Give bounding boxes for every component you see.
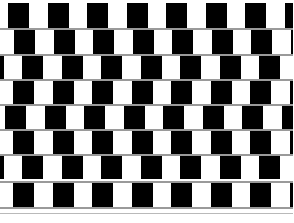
- tile-row-6: [0, 131, 293, 154]
- tile-row-track: [0, 106, 293, 129]
- tile-black: [14, 30, 35, 54]
- tile-black: [13, 183, 34, 207]
- tile-black: [211, 81, 232, 104]
- tile-black: [290, 81, 294, 104]
- tile-black: [101, 156, 122, 179]
- tile-black: [132, 183, 153, 207]
- tile-black: [242, 106, 263, 129]
- tile-row-5: [0, 106, 293, 129]
- mortar-line-shadow: [0, 213, 293, 214]
- tile-black: [245, 3, 266, 28]
- tile-black: [62, 156, 83, 179]
- tile-black: [251, 30, 272, 54]
- cafe-wall-illusion-figure: [0, 0, 293, 223]
- tile-black: [206, 3, 227, 28]
- mortar-line-1: [0, 28, 293, 30]
- tile-black: [291, 30, 294, 54]
- tile-black: [250, 131, 271, 154]
- mortar-line-2: [0, 54, 293, 56]
- tile-black: [180, 156, 201, 179]
- tile-black: [48, 3, 69, 28]
- tile-row-track: [0, 183, 293, 207]
- tile-black: [132, 131, 153, 154]
- mortar-line-4: [0, 104, 293, 106]
- tile-black: [13, 131, 34, 154]
- tile-row-track: [0, 131, 293, 154]
- tile-black: [290, 131, 294, 154]
- tile-black: [141, 56, 162, 79]
- tile-row-track: [0, 56, 293, 79]
- tile-black: [172, 30, 193, 54]
- tile-black: [259, 56, 280, 79]
- tile-black: [22, 56, 43, 79]
- tile-row-7: [0, 156, 293, 179]
- tile-black: [211, 183, 232, 207]
- tile-black: [13, 81, 34, 104]
- tile-black: [250, 183, 271, 207]
- tile-black: [53, 81, 74, 104]
- tile-black: [22, 156, 43, 179]
- tile-row-1: [0, 3, 293, 28]
- mortar-line-7: [0, 181, 293, 183]
- tile-black: [171, 81, 192, 104]
- tile-black: [124, 106, 145, 129]
- mortar-line-3: [0, 79, 293, 81]
- tile-black: [62, 56, 83, 79]
- tile-row-8: [0, 183, 293, 207]
- tile-black: [101, 56, 122, 79]
- tile-black: [92, 183, 113, 207]
- mortar-line-8: [0, 207, 293, 209]
- tile-black: [282, 106, 294, 129]
- tile-black: [180, 56, 201, 79]
- tile-black: [203, 106, 224, 129]
- tile-row-track: [0, 81, 293, 104]
- tile-black: [290, 183, 294, 207]
- tile-black: [133, 30, 154, 54]
- tile-black: [250, 81, 271, 104]
- mortar-line-6: [0, 154, 293, 156]
- tile-black: [127, 3, 148, 28]
- tile-black: [220, 56, 241, 79]
- tile-row-track: [0, 30, 293, 54]
- tile-row-2: [0, 30, 293, 54]
- tile-black: [171, 131, 192, 154]
- tile-black: [92, 81, 113, 104]
- tile-black: [93, 30, 114, 54]
- tile-black: [220, 156, 241, 179]
- tile-black: [53, 183, 74, 207]
- tile-black: [54, 30, 75, 54]
- tile-row-track: [0, 156, 293, 179]
- tile-black: [0, 56, 4, 79]
- tile-row-4: [0, 81, 293, 104]
- tile-black: [259, 156, 280, 179]
- tile-black: [171, 183, 192, 207]
- tile-black: [132, 81, 153, 104]
- tile-black: [92, 131, 113, 154]
- tile-black: [87, 3, 108, 28]
- tile-black: [212, 30, 233, 54]
- tile-black: [141, 156, 162, 179]
- tile-black: [45, 106, 66, 129]
- tile-black: [0, 156, 4, 179]
- tile-black: [84, 106, 105, 129]
- tile-row-track: [0, 3, 293, 28]
- mortar-line-5: [0, 129, 293, 131]
- tile-black: [5, 106, 26, 129]
- tile-black: [53, 131, 74, 154]
- tile-black: [285, 3, 294, 28]
- tile-black: [211, 131, 232, 154]
- tile-row-3: [0, 56, 293, 79]
- tile-black: [8, 3, 29, 28]
- tile-black: [163, 106, 184, 129]
- tile-black: [166, 3, 187, 28]
